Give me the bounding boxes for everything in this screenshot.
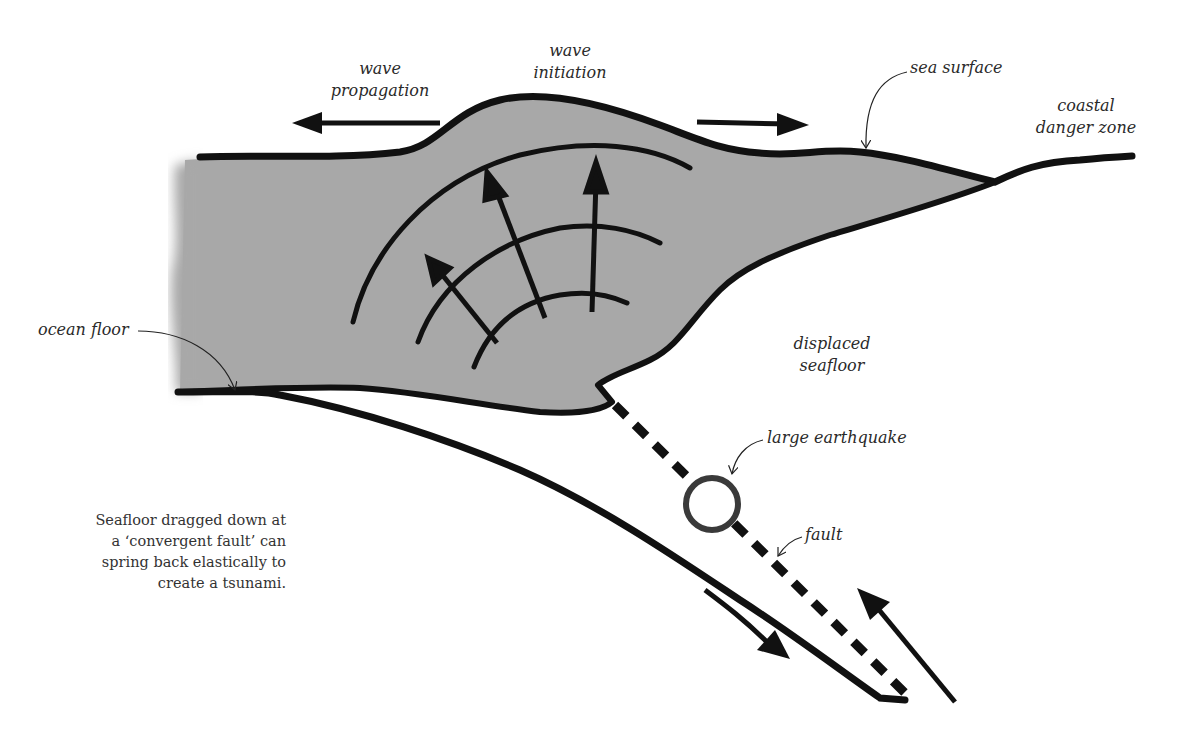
label-line: danger zone [1016, 117, 1156, 139]
tsunami-diagram [0, 0, 1179, 738]
arrow-left-icon [292, 112, 440, 134]
label-line: propagation [310, 80, 450, 102]
ocean-floor-label: ocean floor [38, 319, 129, 341]
displaced-seafloor-label: displaced seafloor [772, 333, 892, 377]
label-line: wave [510, 40, 630, 62]
fault-pointer [778, 537, 802, 556]
label-line: seafloor [772, 355, 892, 377]
label-line: initiation [510, 62, 630, 84]
caption-line: create a tsunami. [6, 573, 286, 594]
fault-line [615, 405, 912, 700]
caption-line: a ‘convergent fault’ can [6, 531, 286, 552]
wave-initiation-label: wave initiation [510, 40, 630, 84]
arrow-right-icon [697, 113, 809, 136]
caption-line: Seafloor dragged down at [6, 510, 286, 531]
circle-focus-icon [686, 478, 738, 530]
label-line: wave [310, 58, 450, 80]
fault-label: fault [805, 524, 842, 546]
sea-surface-label: sea surface [910, 57, 1002, 79]
caption-line: spring back elastically to [6, 552, 286, 573]
wave-propagation-label: wave propagation [310, 58, 450, 102]
caption: Seafloor dragged down at a ‘convergent f… [6, 510, 286, 594]
arrow-up-left-icon [857, 588, 955, 702]
label-line: displaced [772, 333, 892, 355]
earthquake-pointer [732, 440, 763, 474]
label-line: coastal [1016, 95, 1156, 117]
sea-surface-pointer [866, 72, 907, 148]
large-earthquake-label: large earthquake [767, 427, 907, 449]
coastal-danger-zone-label: coastal danger zone [1016, 95, 1156, 139]
